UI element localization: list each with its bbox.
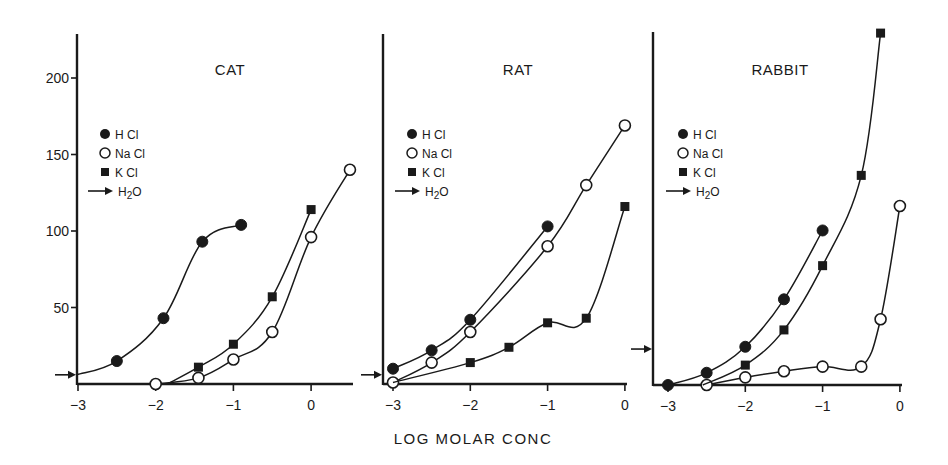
x-tick-label: 0 bbox=[896, 398, 904, 414]
data-point-open-circle-icon bbox=[542, 241, 553, 252]
x-tick-label: −2 bbox=[148, 397, 164, 413]
legend-label: K Cl bbox=[115, 166, 138, 180]
legend-open-circle-icon bbox=[678, 148, 688, 158]
data-point-open-circle-icon bbox=[778, 366, 789, 377]
data-point-open-circle-icon bbox=[740, 372, 751, 383]
legend-label: H2O bbox=[118, 185, 142, 201]
x-tick-label: −1 bbox=[815, 398, 831, 414]
legend-label: H Cl bbox=[115, 128, 138, 142]
legend-label: H Cl bbox=[693, 128, 716, 142]
series-kcl bbox=[167, 205, 315, 384]
panel-title: CAT bbox=[215, 61, 245, 78]
data-point-filled-square-icon bbox=[543, 318, 552, 327]
panel-rat: −3−2−10RATH ClNa ClK ClH2O bbox=[361, 34, 630, 413]
data-point-filled-circle-icon bbox=[740, 341, 751, 352]
legend-filled-circle-icon bbox=[407, 129, 417, 139]
data-point-filled-circle-icon bbox=[236, 219, 247, 230]
data-point-open-circle-icon bbox=[267, 326, 278, 337]
data-point-open-circle-icon bbox=[426, 357, 437, 368]
legend-label: Na Cl bbox=[422, 147, 452, 161]
series-kcl bbox=[703, 29, 885, 385]
data-point-open-circle-icon bbox=[894, 200, 905, 211]
data-point-filled-square-icon bbox=[229, 340, 238, 349]
panel-title: RAT bbox=[503, 61, 533, 78]
data-point-filled-square-icon bbox=[466, 358, 475, 367]
data-point-filled-square-icon bbox=[818, 261, 827, 270]
h2o-level-arrow-icon bbox=[631, 345, 652, 353]
legend-label: Na Cl bbox=[115, 147, 145, 161]
legend-filled-circle-icon bbox=[678, 129, 688, 139]
legend-label: K Cl bbox=[693, 166, 716, 180]
data-point-open-circle-icon bbox=[856, 361, 867, 372]
series-hcl bbox=[388, 221, 554, 374]
data-point-filled-circle-icon bbox=[426, 345, 437, 356]
data-point-filled-square-icon bbox=[620, 202, 629, 211]
data-point-filled-circle-icon bbox=[158, 313, 169, 324]
data-point-filled-circle-icon bbox=[817, 225, 828, 236]
data-point-open-circle-icon bbox=[344, 164, 355, 175]
data-point-open-circle-icon bbox=[228, 354, 239, 365]
data-point-filled-square-icon bbox=[194, 363, 203, 372]
series-line bbox=[703, 33, 881, 385]
legend-h2o-arrow-icon bbox=[88, 187, 113, 195]
x-tick-label: 0 bbox=[621, 397, 629, 413]
h2o-level-arrow-icon bbox=[361, 371, 382, 379]
data-point-open-circle-icon bbox=[581, 180, 592, 191]
data-point-filled-square-icon bbox=[268, 292, 277, 301]
data-point-open-circle-icon bbox=[875, 314, 886, 325]
series-line bbox=[707, 206, 900, 385]
legend-filled-square-icon bbox=[408, 168, 416, 176]
data-point-open-circle-icon bbox=[619, 120, 630, 131]
data-point-filled-square-icon bbox=[307, 205, 316, 214]
x-tick-label: −3 bbox=[385, 397, 401, 413]
legend-open-circle-icon bbox=[100, 148, 110, 158]
data-point-filled-circle-icon bbox=[778, 294, 789, 305]
panel-cat: 50100150200−3−2−10CATH ClNa ClK ClH2O bbox=[46, 34, 356, 413]
legend: H ClNa ClK ClH2O bbox=[395, 128, 452, 202]
figure: 50100150200−3−2−10CATH ClNa ClK ClH2O−3−… bbox=[0, 0, 948, 465]
x-tick-label: −3 bbox=[70, 397, 86, 413]
data-point-open-circle-icon bbox=[465, 326, 476, 337]
y-tick-label: 100 bbox=[46, 223, 70, 239]
y-tick-label: 50 bbox=[53, 300, 69, 316]
series-nacl bbox=[701, 200, 905, 390]
data-point-filled-circle-icon bbox=[542, 221, 553, 232]
series-line bbox=[77, 225, 241, 375]
data-point-filled-square-icon bbox=[504, 343, 513, 352]
series-hcl bbox=[77, 219, 247, 374]
legend-filled-square-icon bbox=[101, 168, 109, 176]
data-point-filled-square-icon bbox=[582, 314, 591, 323]
legend-h2o-arrow-icon bbox=[666, 187, 691, 195]
x-tick-label: −3 bbox=[660, 398, 676, 414]
legend: H ClNa ClK ClH2O bbox=[88, 128, 145, 202]
y-tick-label: 200 bbox=[46, 70, 70, 86]
legend-label: H2O bbox=[696, 185, 720, 201]
legend-label: Na Cl bbox=[693, 147, 723, 161]
data-point-open-circle-icon bbox=[150, 379, 161, 390]
panel-title: RABBIT bbox=[751, 61, 808, 78]
data-point-filled-circle-icon bbox=[465, 314, 476, 325]
data-point-open-circle-icon bbox=[817, 361, 828, 372]
legend-h2o-arrow-icon bbox=[395, 187, 420, 195]
x-tick-label: −2 bbox=[462, 397, 478, 413]
h2o-level-arrow-icon bbox=[55, 371, 76, 379]
data-point-filled-circle-icon bbox=[111, 356, 122, 367]
data-point-filled-square-icon bbox=[876, 29, 885, 38]
legend-label: H2O bbox=[425, 185, 449, 201]
y-tick-label: 150 bbox=[46, 147, 70, 163]
x-tick-label: −1 bbox=[540, 397, 556, 413]
data-point-filled-square-icon bbox=[779, 325, 788, 334]
legend: H ClNa ClK ClH2O bbox=[666, 128, 723, 202]
chart-canvas: 50100150200−3−2−10CATH ClNa ClK ClH2O−3−… bbox=[0, 0, 948, 465]
legend-open-circle-icon bbox=[407, 148, 417, 158]
data-point-filled-circle-icon bbox=[197, 236, 208, 247]
legend-filled-square-icon bbox=[679, 168, 687, 176]
legend-label: K Cl bbox=[422, 166, 445, 180]
x-tick-label: 0 bbox=[307, 397, 315, 413]
series-line bbox=[393, 226, 548, 368]
data-point-filled-circle-icon bbox=[388, 363, 399, 374]
data-point-filled-circle-icon bbox=[663, 380, 674, 391]
panel-rabbit: −3−2−10RABBITH ClNa ClK ClH2O bbox=[631, 29, 905, 414]
data-point-open-circle-icon bbox=[193, 372, 204, 383]
data-point-filled-circle-icon bbox=[701, 367, 712, 378]
